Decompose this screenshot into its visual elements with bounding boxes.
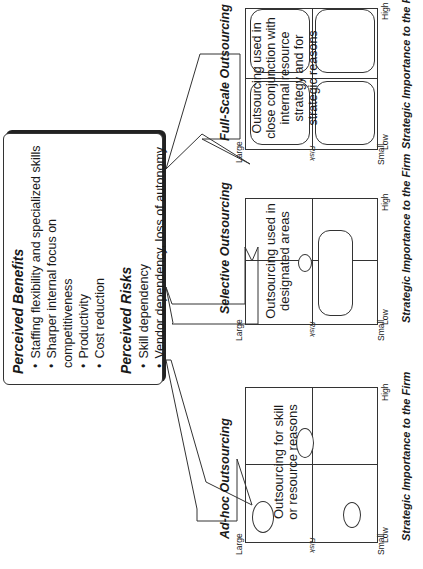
x-low-label: Low xyxy=(380,309,390,325)
x-axis-label: Strategic Importance to the Firm xyxy=(400,154,412,323)
chart-description: Outsourcing for skill or resource reason… xyxy=(272,402,300,522)
ad-hoc-chart: Outsourcing for skill or resource reason… xyxy=(245,387,378,543)
full-scale-chart: Outsourcing used in close conjunction wi… xyxy=(245,8,378,150)
risks-list: Skill dependency Vendor dependency, loss… xyxy=(136,144,168,374)
benefit-item: Sharper internal focus on competitivenes… xyxy=(44,144,76,368)
rounded-region xyxy=(318,230,353,316)
x-axis-label: Strategic Importance to the Firm xyxy=(400,0,412,149)
y-large-label: Large xyxy=(234,533,244,555)
x-high-label: High xyxy=(380,194,390,211)
benefits-heading: Perceived Benefits xyxy=(10,144,26,374)
x-axis-label: Strategic Importance to the Firm xyxy=(400,372,412,541)
oval-marker xyxy=(298,254,312,272)
x-high-label: High xyxy=(380,384,390,401)
x-low-label: Low xyxy=(380,527,390,543)
selective-title: Selective Outsourcing xyxy=(218,182,232,314)
arrow-ad-hoc xyxy=(166,360,252,521)
rounded-region xyxy=(315,9,375,73)
risks-heading: Perceived Risks xyxy=(118,144,134,374)
x-high-label: High xyxy=(380,3,390,20)
y-large-label: Large xyxy=(234,319,244,341)
selective-chart: Outsourcing used in designated areas xyxy=(245,198,378,325)
chart-description: Outsourcing used in close conjunction wi… xyxy=(250,13,320,143)
ad-hoc-title: Ad-hoc Outsourcing xyxy=(218,418,232,539)
risk-item: Skill dependency xyxy=(136,144,152,368)
full-scale-title: Full-Scale Outsourcing xyxy=(218,4,232,141)
perceived-benefits-risks-box: Perceived Benefits Staffing flexibility … xyxy=(3,133,163,385)
benefit-item: Staffing flexibility and specialized ski… xyxy=(28,144,44,368)
oval-marker xyxy=(343,502,361,528)
benefit-item: Productivity xyxy=(76,144,92,368)
risk-item: Vendor dependency, loss of autonomy xyxy=(152,144,168,368)
chart-description: Outsourcing used in designated areas xyxy=(264,202,292,320)
diagram-canvas: Perceived Benefits Staffing flexibility … xyxy=(0,0,423,569)
benefit-item: Cost reduction xyxy=(92,144,108,368)
benefits-list: Staffing flexibility and specialized ski… xyxy=(28,144,108,374)
rounded-region xyxy=(315,81,375,145)
y-large-label: Large xyxy=(234,141,244,163)
x-low-label: Low xyxy=(380,134,390,150)
